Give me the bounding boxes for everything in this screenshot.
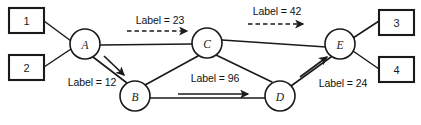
network-diagram: 1 2 3 4 A B C D E Label = 23 Label = 42 …: [0, 0, 421, 125]
endpoint-label-4: 4: [393, 64, 399, 76]
node-label-b: B: [131, 91, 138, 103]
endpoint-link-1-a: [44, 21, 71, 41]
edge-label-24: Label = 24: [319, 77, 368, 89]
endpoint-label-2: 2: [23, 62, 29, 74]
node-label-e: E: [335, 39, 343, 51]
diagram-canvas: 1 2 3 4 A B C D E Label = 23 Label = 42 …: [0, 0, 421, 125]
edge-a-c: [100, 44, 192, 45]
node-label-c: C: [203, 38, 211, 50]
direction-arrow-de-icon: [300, 57, 327, 77]
endpoint-label-3: 3: [393, 17, 399, 29]
edge-label-23: Label = 23: [136, 14, 185, 26]
endpoint-link-e-3: [353, 21, 379, 38]
node-label-d: D: [275, 91, 285, 103]
edge-c-e: [222, 40, 326, 47]
endpoint-label-1: 1: [23, 15, 29, 27]
edge-label-42: Label = 42: [253, 5, 302, 17]
edge-label-12: Label = 12: [68, 76, 117, 88]
endpoint-link-2-a: [44, 49, 71, 67]
node-label-a: A: [80, 39, 89, 51]
endpoint-link-e-4: [353, 51, 379, 69]
edge-label-96: Label = 96: [191, 72, 240, 84]
